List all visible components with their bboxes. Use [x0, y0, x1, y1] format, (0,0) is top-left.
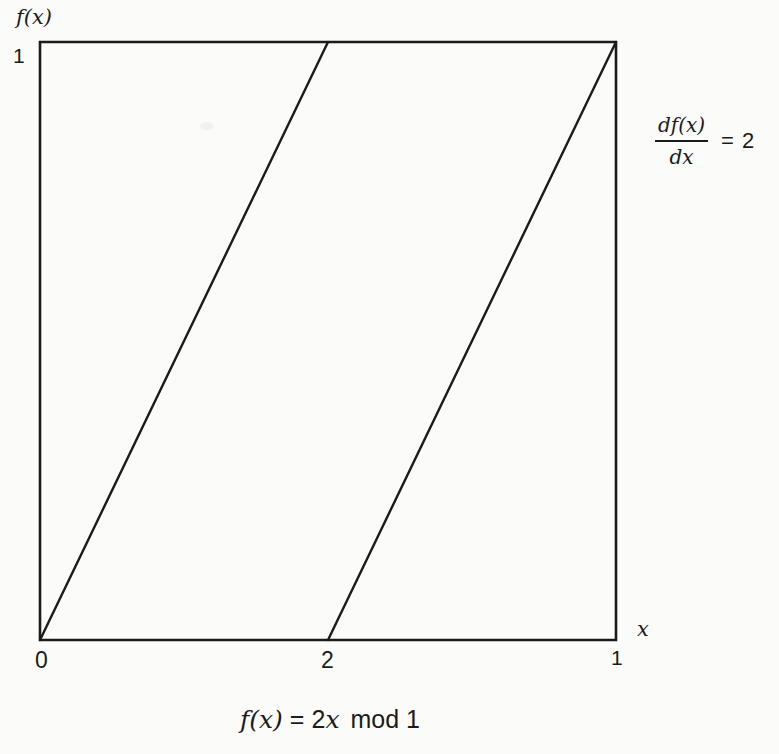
derivative-equals-sign: = [721, 128, 734, 154]
y-axis-label: f(x) [16, 7, 52, 28]
plot-frame [40, 42, 616, 640]
derivative-fraction: df(x) dx [655, 113, 708, 169]
derivative-numerator: df(x) [655, 113, 708, 142]
derivative-slope-value: 2 [742, 128, 754, 154]
map-segment-1 [40, 42, 328, 640]
derivative-annotation: df(x) dx = 2 [655, 113, 754, 169]
x-tick-1: 1 [611, 647, 623, 668]
caption-equals-sign: = [290, 705, 305, 734]
scan-smudge [200, 122, 214, 130]
caption-variable: x [325, 705, 339, 734]
caption-coefficient: 2 [311, 705, 325, 734]
derivative-denominator: dx [670, 142, 694, 169]
x-tick-0: 0 [35, 649, 48, 672]
caption-mod: mod 1 [350, 705, 419, 734]
map-segment-2 [328, 42, 616, 640]
derivative-value: = 2 [721, 128, 754, 154]
caption-fx: f(x) [240, 705, 283, 734]
x-tick-mid: 2 [321, 649, 334, 672]
x-axis-label: x [637, 619, 649, 640]
y-tick-1: 1 [13, 45, 25, 66]
figure-caption: f(x) = 2 x mod 1 [240, 705, 420, 734]
sawtooth-map-figure: f(x) 1 0 2 1 x df(x) dx = 2 f(x) = 2 x m… [0, 0, 779, 754]
